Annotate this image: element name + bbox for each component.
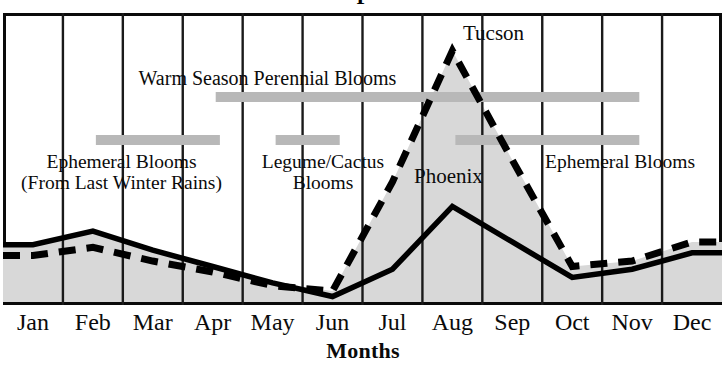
annotation-legume-line1: Legume/Cactus xyxy=(240,152,406,173)
annotation-ephemeral-right: Ephemeral Blooms xyxy=(520,152,720,173)
annotation-legume-cactus: Legume/Cactus Blooms xyxy=(240,152,406,194)
x-axis-ticks: JanFebMarAprMayJunJulAugSepOctNovDec xyxy=(3,307,722,337)
bloom-bar xyxy=(276,135,340,145)
x-tick-nov: Nov xyxy=(602,307,662,337)
annotation-ephemeral-left-line2: (From Last Winter Rains) xyxy=(0,173,243,194)
x-tick-oct: Oct xyxy=(542,307,602,337)
annotation-ephemeral-left: Ephemeral Blooms (From Last Winter Rains… xyxy=(0,152,243,194)
x-tick-jun: Jun xyxy=(303,307,363,337)
annotation-series-label-tucson: Tucson xyxy=(463,22,524,44)
annotation-series-label-phoenix: Phoenix xyxy=(414,165,483,187)
x-tick-sep: Sep xyxy=(482,307,542,337)
bloom-bar xyxy=(455,135,639,145)
x-tick-dec: Dec xyxy=(662,307,722,337)
precipitation-bloom-chart: P Warm Season Perennial Blooms Ephemeral… xyxy=(0,0,726,367)
x-tick-jan: Jan xyxy=(3,307,63,337)
x-axis-title: Months xyxy=(0,338,726,364)
bloom-bar xyxy=(96,135,220,145)
x-tick-feb: Feb xyxy=(63,307,123,337)
bloom-duration-bars xyxy=(96,92,639,145)
x-tick-may: May xyxy=(243,307,303,337)
x-tick-mar: Mar xyxy=(123,307,183,337)
annotation-warm-season: Warm Season Perennial Blooms xyxy=(0,68,535,89)
annotation-ephemeral-left-line1: Ephemeral Blooms xyxy=(0,152,243,173)
annotation-legume-line2: Blooms xyxy=(240,173,406,194)
x-tick-jul: Jul xyxy=(363,307,423,337)
chart-title-clipped: P xyxy=(0,0,726,8)
x-tick-apr: Apr xyxy=(183,307,243,337)
x-tick-aug: Aug xyxy=(422,307,482,337)
